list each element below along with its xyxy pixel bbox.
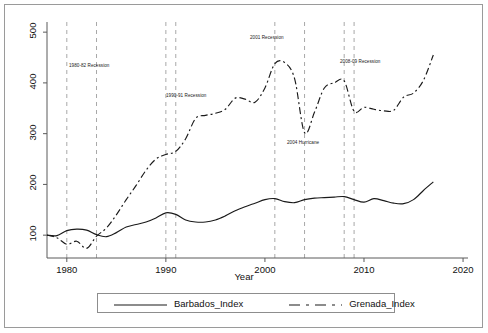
legend-key-dashdot-icon bbox=[287, 297, 344, 309]
y-tick-group bbox=[43, 32, 47, 235]
x-tick-group bbox=[67, 258, 463, 262]
y-tick-label-400: 400 bbox=[27, 69, 38, 93]
axis-group bbox=[43, 22, 468, 262]
annotation-label: 1990-91 Recession bbox=[166, 93, 206, 98]
legend-label-barbados: Barbados_Index bbox=[174, 298, 243, 309]
legend-item-grenada[interactable]: Grenada_Index bbox=[287, 294, 415, 312]
legend-key-solid-icon bbox=[112, 297, 169, 309]
annotation-label: 2004 Hurricane bbox=[287, 140, 319, 145]
x-axis-title: Year bbox=[0, 271, 488, 282]
y-tick-label-100: 100 bbox=[27, 222, 38, 246]
series-line-barbados bbox=[47, 182, 433, 237]
y-tick-label-500: 500 bbox=[27, 19, 38, 43]
chart-legend: Barbados_Index Grenada_Index bbox=[97, 293, 395, 313]
series-line-grenada bbox=[47, 55, 433, 248]
line-chart bbox=[0, 0, 488, 333]
y-tick-label-300: 300 bbox=[27, 120, 38, 144]
annotation-label: 2001 Recession bbox=[250, 35, 284, 40]
annotation-label: 2008-09 Recession bbox=[340, 59, 380, 64]
legend-item-barbados[interactable]: Barbados_Index bbox=[112, 294, 243, 312]
y-tick-label-200: 200 bbox=[27, 171, 38, 195]
legend-label-grenada: Grenada_Index bbox=[349, 298, 415, 309]
annotation-label: 1980-82 Recession bbox=[69, 63, 109, 68]
